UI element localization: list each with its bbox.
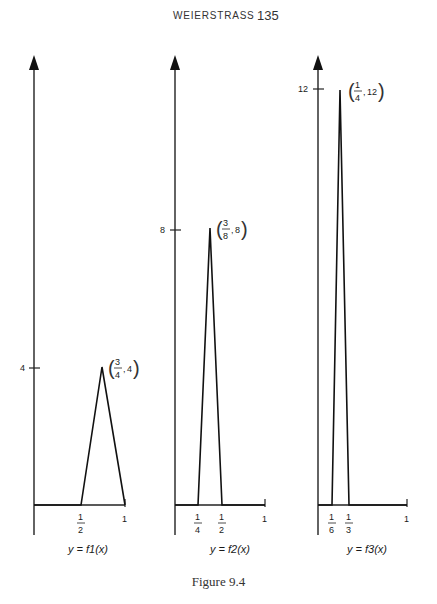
svg-text:,: ,: [363, 87, 366, 97]
x-tick-label-half: 1 2: [77, 512, 85, 535]
peak-annotation: ( 1 4 , 12 ): [348, 80, 385, 103]
x-tick-label-quarter: 1 4: [194, 512, 202, 535]
svg-text:): ): [241, 218, 248, 240]
x-tick-label-sixth: 1 6: [328, 512, 336, 535]
x-tick-label-one: 1: [262, 514, 267, 524]
svg-text:): ): [133, 357, 140, 379]
plot-f2: 8 ( 3 8 , 8 ) 1 4 1 2 1 y = f2(x): [160, 55, 267, 555]
y-axis-arrow-icon: [29, 55, 39, 70]
y-axis-arrow-icon: [313, 55, 323, 70]
svg-text:3: 3: [115, 357, 120, 367]
plot-f1: 4 ( 3 4 , 4 ) 1 2 1 y = f1(x): [20, 55, 140, 555]
svg-text:4: 4: [195, 525, 200, 535]
svg-text:2: 2: [78, 525, 83, 535]
svg-text:6: 6: [329, 525, 334, 535]
svg-text:8: 8: [223, 231, 228, 241]
function-label: y = f1(x): [67, 543, 108, 555]
y-tick-label: 8: [160, 225, 165, 235]
figure-plots: 4 ( 3 4 , 4 ) 1 2 1 y = f1(x) 8 (: [0, 0, 437, 604]
x-tick-label-one: 1: [122, 514, 127, 524]
function-label: y = f3(x): [346, 543, 387, 555]
svg-text:(: (: [216, 218, 223, 240]
f3-graph: [318, 90, 407, 505]
svg-text:4: 4: [115, 370, 120, 380]
plot-f3: 12 ( 1 4 , 12 ) 1 6 1 3 1 y = f3(x): [298, 55, 409, 555]
svg-text:(: (: [348, 80, 355, 102]
y-axis-arrow-icon: [170, 55, 180, 70]
x-tick-label-third: 1 3: [345, 512, 353, 535]
svg-text:): ): [378, 80, 385, 102]
x-tick-label-one: 1: [404, 514, 409, 524]
f2-graph: [175, 228, 265, 505]
x-tick-label-half: 1 2: [218, 512, 226, 535]
function-label: y = f2(x): [209, 543, 250, 555]
y-tick-label: 4: [20, 363, 25, 373]
svg-text:,: ,: [231, 225, 234, 235]
figure-caption: Figure 9.4: [0, 574, 437, 590]
svg-text:(: (: [108, 357, 115, 379]
svg-text:4: 4: [127, 364, 132, 374]
peak-annotation: ( 3 8 , 8 ): [216, 218, 248, 241]
svg-text:12: 12: [367, 87, 377, 97]
svg-text:1: 1: [329, 512, 334, 522]
svg-text:1: 1: [219, 512, 224, 522]
svg-text:8: 8: [235, 225, 240, 235]
svg-text:4: 4: [355, 93, 360, 103]
f1-graph: [34, 367, 125, 505]
svg-text:1: 1: [346, 512, 351, 522]
svg-text:3: 3: [223, 218, 228, 228]
svg-text:1: 1: [195, 512, 200, 522]
peak-annotation: ( 3 4 , 4 ): [108, 357, 140, 380]
svg-text:1: 1: [78, 512, 83, 522]
svg-text:,: ,: [123, 364, 126, 374]
svg-text:2: 2: [219, 525, 224, 535]
svg-text:3: 3: [346, 525, 351, 535]
svg-text:1: 1: [355, 80, 360, 90]
y-tick-label: 12: [298, 84, 308, 94]
